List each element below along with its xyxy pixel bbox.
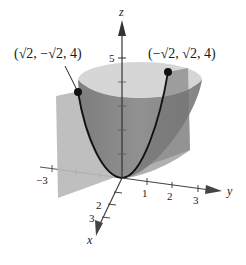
x-tick-3: 3 — [89, 212, 95, 224]
left-point-label: (√2, −√2, 4) — [14, 46, 82, 62]
z-tick-5: 5 — [109, 52, 115, 64]
right-point-label: (−√2, √2, 4) — [148, 46, 216, 62]
y-axis-arrow-icon — [205, 185, 222, 194]
x-axis-arrow-icon — [95, 220, 103, 236]
left-point-marker — [74, 88, 82, 96]
right-point-marker — [164, 68, 172, 76]
y-axis: 1 2 3 y — [122, 178, 233, 206]
z-axis-label: z — [118, 5, 124, 19]
y-tick-2: 2 — [167, 190, 173, 202]
z-axis-arrow-icon — [118, 20, 126, 36]
x-tick-2: 2 — [96, 199, 102, 211]
y-tick-3: 3 — [193, 194, 199, 206]
left-point-leader — [65, 66, 78, 92]
x-axis-label: x — [86, 233, 93, 247]
x-axis: 2 3 x — [86, 178, 122, 247]
paraboloid-figure: z 5 1 2 3 y −3 2 3 x (√2, −√2, 4) (−√2, … — [0, 0, 246, 265]
y-axis-label: y — [226, 184, 233, 198]
y-tick-1: 1 — [142, 187, 148, 199]
y-tick-neg3: −3 — [36, 174, 48, 186]
